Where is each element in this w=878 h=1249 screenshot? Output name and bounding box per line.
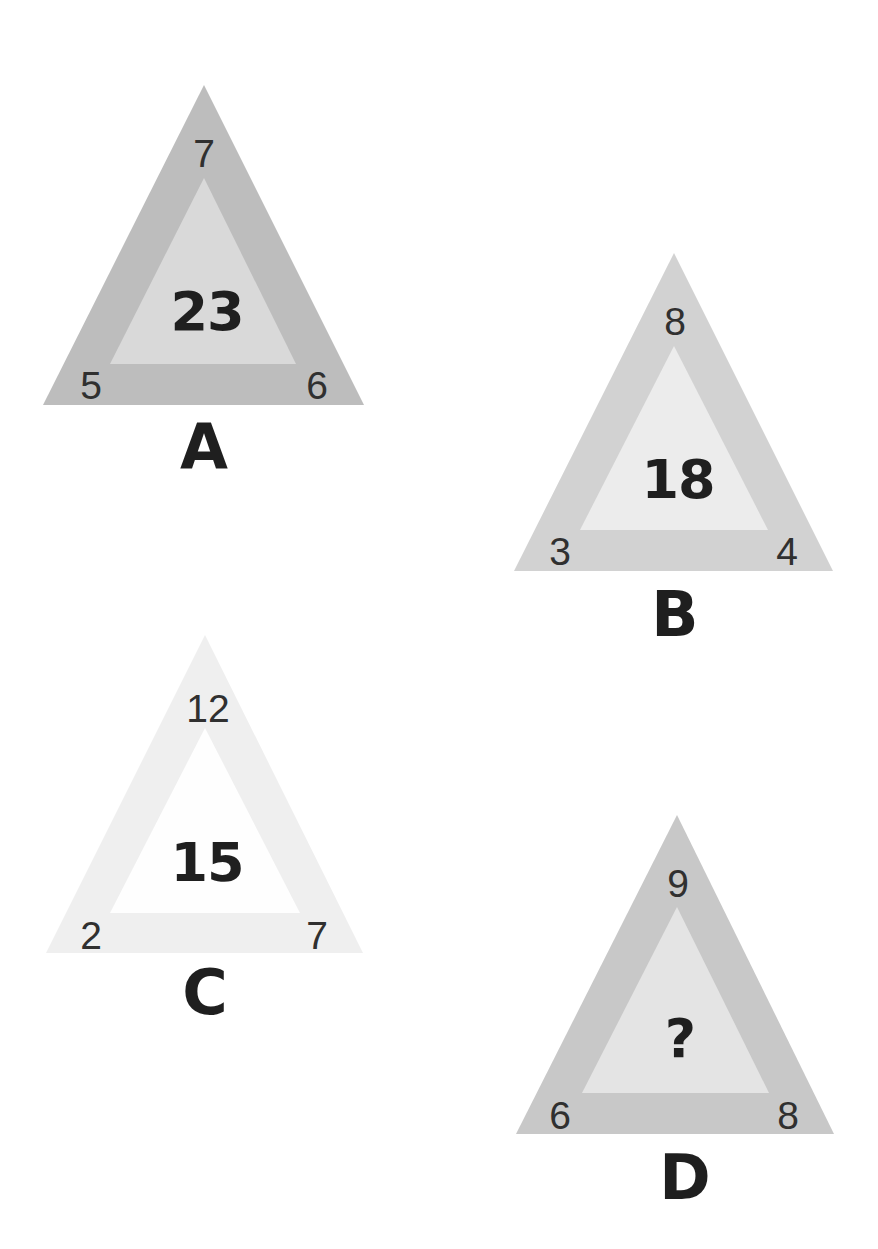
puzzle-canvas	[0, 0, 878, 1249]
triangle-c	[46, 635, 363, 953]
triangle-a	[43, 85, 364, 405]
triangle-d	[516, 815, 834, 1134]
triangle-b	[514, 253, 833, 571]
